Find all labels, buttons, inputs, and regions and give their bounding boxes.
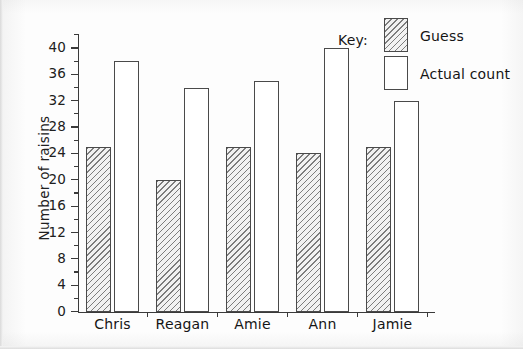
y-tick-label: 36 (36, 65, 66, 81)
y-tick-major (71, 285, 79, 286)
chart-legend: Key: Guess Actual count (338, 16, 518, 88)
legend-swatch-guess (384, 18, 408, 52)
legend-title: Key: (338, 32, 368, 48)
y-tick-major (71, 100, 79, 101)
y-tick-minor (74, 219, 79, 220)
bar-chris-guess (86, 147, 111, 312)
y-tick-minor (74, 34, 79, 35)
y-tick-minor (74, 87, 79, 88)
y-tick-minor (74, 271, 79, 272)
category-label-ann: Ann (286, 316, 359, 332)
category-label-chris: Chris (76, 316, 149, 332)
y-tick-minor (74, 192, 79, 193)
y-tick-major (71, 311, 79, 312)
bar-chris-actual-count (114, 61, 139, 311)
y-tick-minor (74, 245, 79, 246)
y-tick-minor (74, 113, 79, 114)
bar-reagan-actual-count (184, 88, 209, 312)
y-tick-minor (74, 140, 79, 141)
category-label-reagan: Reagan (146, 316, 219, 332)
y-tick-major (71, 74, 79, 75)
y-tick-minor (74, 298, 79, 299)
bar-jamie-actual-count (394, 101, 419, 312)
y-tick-label: 0 (36, 303, 66, 319)
y-tick-minor (74, 61, 79, 62)
legend-label-actual-count: Actual count (420, 66, 510, 82)
y-tick-major (71, 47, 79, 48)
y-tick-major (71, 206, 79, 207)
y-tick-major (71, 126, 79, 127)
category-label-amie: Amie (216, 316, 289, 332)
y-tick-major (71, 153, 79, 154)
category-label-jamie: Jamie (356, 316, 429, 332)
y-tick-label: 40 (36, 39, 66, 55)
legend-label-guess: Guess (420, 28, 464, 44)
bar-amie-actual-count (254, 81, 279, 312)
y-tick-major (71, 258, 79, 259)
legend-swatch-actual-count (384, 56, 408, 90)
bar-ann-guess (296, 153, 321, 311)
bar-reagan-guess (156, 180, 181, 312)
chart-page: 0481216202428323640 Number of raisins Ch… (0, 0, 523, 349)
y-tick-label: 4 (36, 276, 66, 292)
x-axis-line (78, 312, 435, 313)
y-axis-title: Number of raisins (36, 93, 52, 263)
y-tick-major (71, 232, 79, 233)
y-tick-major (71, 179, 79, 180)
y-tick-minor (74, 166, 79, 167)
bar-amie-guess (226, 147, 251, 312)
bar-chart: 0481216202428323640 Number of raisins Ch… (0, 0, 523, 349)
bar-jamie-guess (366, 147, 391, 312)
